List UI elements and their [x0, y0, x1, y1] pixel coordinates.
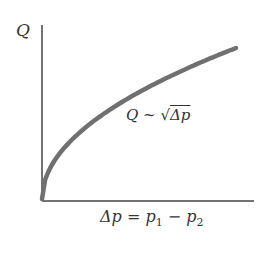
curve-annotation: Q ~ √Δp [126, 106, 190, 124]
x-label-sub1: 1 [156, 216, 163, 229]
sqrt-symbol: √ [160, 106, 170, 124]
x-label-p2: p [186, 207, 196, 226]
x-label-minus: − [163, 207, 187, 226]
x-label-sub2: 2 [196, 216, 203, 229]
x-label-lhs: Δp = [100, 207, 145, 226]
annotation-root-arg: Δp [170, 106, 190, 124]
y-axis-label: Q [16, 20, 30, 40]
x-axis-label: Δp = p1 − p2 [100, 207, 203, 229]
x-label-p1: p [145, 207, 155, 226]
annotation-sim: ~ [143, 106, 156, 124]
annotation-q: Q [126, 106, 138, 124]
